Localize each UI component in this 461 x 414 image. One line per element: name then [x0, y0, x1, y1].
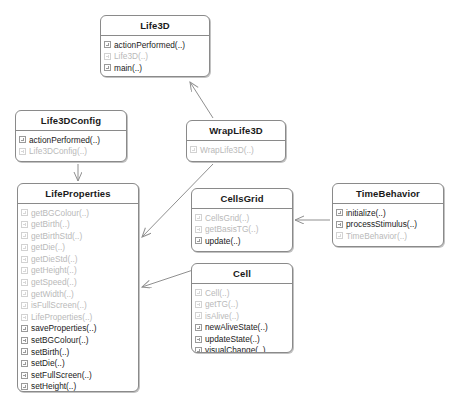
member-label: setBGColour(..) — [31, 335, 89, 346]
member-label: getBGColour(..) — [31, 208, 89, 219]
member-label: newAliveState(..) — [205, 322, 268, 333]
member-row[interactable]: setDie(..) — [21, 358, 136, 370]
member-label: getWidth(..) — [31, 289, 74, 300]
member-label: setFullScreen(..) — [31, 370, 92, 381]
member-label: LifeProperties(..) — [31, 312, 92, 323]
class-members-life3d: actionPerformed(..)Life3D(..)main(..) — [101, 36, 209, 77]
member-row[interactable]: getBGColour(..) — [21, 207, 136, 219]
member-row[interactable]: isFullScreen(..) — [21, 300, 136, 312]
method-icon — [21, 232, 28, 239]
member-row[interactable]: TimeBehavior(..) — [336, 230, 441, 242]
member-row[interactable]: getBirth(..) — [21, 219, 136, 231]
member-label: setHeight(..) — [31, 381, 76, 392]
member-label: getDie(..) — [31, 242, 65, 253]
member-label: getBirth(..) — [31, 219, 70, 230]
class-members-cellsgrid: CellsGrid(..)getBasisTG(..)update(..) — [192, 209, 292, 251]
member-label: getTG(..) — [205, 299, 238, 310]
member-row[interactable]: getBirthStd(..) — [21, 230, 136, 242]
method-icon — [195, 312, 202, 319]
method-icon — [336, 221, 343, 228]
method-icon — [195, 336, 202, 343]
class-members-timebehavior: initialize(..)processStimulus(..)TimeBeh… — [333, 204, 443, 246]
member-label: actionPerformed(..) — [114, 40, 185, 51]
class-title-timebehavior: TimeBehavior — [333, 184, 443, 204]
member-label: initialize(..) — [346, 208, 386, 219]
method-icon — [21, 209, 28, 216]
member-row[interactable]: getWidth(..) — [21, 288, 136, 300]
member-label: main(..) — [114, 63, 142, 74]
member-label: setDie(..) — [31, 358, 65, 369]
method-icon — [195, 301, 202, 308]
member-row[interactable]: initialize(..) — [336, 207, 441, 219]
member-row[interactable]: newAliveState(..) — [195, 322, 290, 334]
method-icon — [195, 324, 202, 331]
class-box-life3dconfig[interactable]: Life3DConfigactionPerformed(..)Life3DCon… — [15, 110, 127, 162]
member-label: updateState(..) — [205, 334, 260, 345]
member-row[interactable]: Life3D(..) — [104, 51, 207, 63]
method-icon — [21, 267, 28, 274]
method-icon — [195, 347, 202, 353]
member-row[interactable]: Cell(..) — [195, 287, 290, 299]
method-icon — [104, 41, 111, 48]
method-icon — [21, 244, 28, 251]
member-label: actionPerformed(..) — [29, 135, 100, 146]
member-row[interactable]: LifeProperties(..) — [21, 311, 136, 323]
member-label: saveProperties(..) — [31, 323, 96, 334]
member-row[interactable]: setHeight(..) — [21, 381, 136, 392]
member-label: WrapLife3D(..) — [200, 145, 254, 156]
member-row[interactable]: setFullScreen(..) — [21, 369, 136, 381]
class-box-cell[interactable]: CellCell(..)getTG(..)isAlive(..)newAlive… — [191, 263, 293, 353]
method-icon — [190, 146, 197, 153]
member-row[interactable]: actionPerformed(..) — [104, 39, 207, 51]
method-icon — [21, 314, 28, 321]
method-icon — [21, 325, 28, 332]
class-box-life3d[interactable]: Life3DactionPerformed(..)Life3D(..)main(… — [100, 15, 210, 77]
member-row[interactable]: setBGColour(..) — [21, 335, 136, 347]
connector-wraplife3d-to-life3d — [190, 82, 213, 118]
member-row[interactable]: visualChange(..) — [195, 345, 290, 353]
method-icon — [195, 214, 202, 221]
member-row[interactable]: getSpeed(..) — [21, 277, 136, 289]
member-row[interactable]: saveProperties(..) — [21, 323, 136, 335]
method-icon — [21, 221, 28, 228]
method-icon — [336, 232, 343, 239]
member-label: isFullScreen(..) — [31, 300, 87, 311]
member-label: getBirthStd(..) — [31, 231, 82, 242]
member-row[interactable]: CellsGrid(..) — [195, 212, 290, 224]
member-row[interactable]: getDie(..) — [21, 242, 136, 254]
member-row[interactable]: main(..) — [104, 62, 207, 74]
class-box-cellsgrid[interactable]: CellsGridCellsGrid(..)getBasisTG(..)upda… — [191, 188, 293, 252]
method-icon — [21, 302, 28, 309]
member-row[interactable]: Life3DConfig(..) — [19, 146, 124, 158]
class-members-lifeproperties: getBGColour(..)getBirth(..)getBirthStd(.… — [18, 204, 138, 392]
member-row[interactable]: WrapLife3D(..) — [190, 144, 283, 156]
diagram-canvas: Life3DactionPerformed(..)Life3D(..)main(… — [0, 0, 461, 414]
class-box-timebehavior[interactable]: TimeBehaviorinitialize(..)processStimulu… — [332, 183, 444, 247]
method-icon — [336, 209, 343, 216]
member-row[interactable]: getTG(..) — [195, 299, 290, 311]
method-icon — [21, 290, 28, 297]
member-row[interactable]: processStimulus(..) — [336, 219, 441, 231]
member-label: CellsGrid(..) — [205, 213, 249, 224]
member-row[interactable]: getDieStd(..) — [21, 253, 136, 265]
class-box-wraplife3d[interactable]: WrapLife3DWrapLife3D(..) — [186, 120, 286, 162]
class-title-life3dconfig: Life3DConfig — [16, 111, 126, 131]
member-row[interactable]: getBasisTG(..) — [195, 224, 290, 236]
class-title-lifeproperties: LifeProperties — [18, 184, 138, 204]
member-label: setBirth(..) — [31, 347, 69, 358]
method-icon — [19, 148, 26, 155]
member-label: getHeight(..) — [31, 265, 77, 276]
member-row[interactable]: updateState(..) — [195, 333, 290, 345]
member-label: TimeBehavior(..) — [346, 231, 407, 242]
method-icon — [195, 226, 202, 233]
member-row[interactable]: isAlive(..) — [195, 310, 290, 322]
member-row[interactable]: setBirth(..) — [21, 346, 136, 358]
class-members-life3dconfig: actionPerformed(..)Life3DConfig(..) — [16, 131, 126, 161]
member-row[interactable]: getHeight(..) — [21, 265, 136, 277]
member-label: Life3DConfig(..) — [29, 146, 87, 157]
method-icon — [195, 289, 202, 296]
member-row[interactable]: update(..) — [195, 235, 290, 247]
class-box-lifeproperties[interactable]: LifePropertiesgetBGColour(..)getBirth(..… — [17, 183, 139, 392]
member-label: Cell(..) — [205, 288, 229, 299]
member-row[interactable]: actionPerformed(..) — [19, 134, 124, 146]
